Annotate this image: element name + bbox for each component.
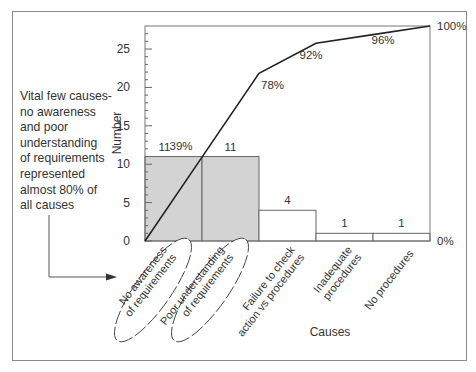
x-axis-title: Causes [310, 325, 351, 339]
bar-value-label: 1 [341, 217, 347, 229]
bar-value-label: 4 [284, 194, 291, 206]
cumulative-label: 92% [299, 49, 322, 61]
cumulative-label: 39% [169, 140, 192, 152]
x-category-label: No procedures [362, 247, 416, 312]
x-category-label: Inadequateprocedures [311, 243, 364, 302]
bar [316, 233, 373, 241]
bar [259, 210, 316, 241]
secondary-axis-label: 0% [437, 235, 454, 247]
pareto-chart: 0510152025 No awarenessof requirementsPo… [0, 0, 476, 372]
annotation-arrow [49, 215, 117, 281]
y-tick-label: 5 [123, 196, 130, 210]
cumulative-label: 78% [261, 79, 284, 91]
bar [202, 157, 259, 241]
y-axis-title: Number [110, 112, 124, 155]
cumulative-label: 96% [371, 34, 394, 46]
svg-text:No procedures: No procedures [362, 247, 416, 312]
y-tick-label: 0 [123, 234, 130, 248]
bar [373, 233, 430, 241]
bar-value-label: 11 [225, 141, 237, 153]
cumulative-label: 100% [437, 20, 466, 32]
bar-value-label: 1 [398, 217, 404, 229]
bar-value-label: 11 [159, 141, 171, 153]
y-tick-label: 10 [117, 157, 131, 171]
y-tick-label: 25 [117, 42, 131, 56]
y-tick-label: 20 [117, 80, 131, 94]
